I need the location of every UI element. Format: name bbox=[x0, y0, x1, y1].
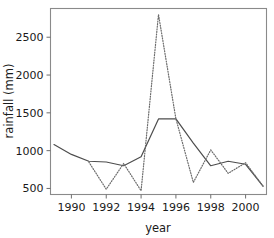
y-tick-label: 1000 bbox=[16, 145, 44, 158]
x-tick-label: 1994 bbox=[127, 201, 155, 214]
rainfall-line-chart: 5001000150020002500 19901992199419961998… bbox=[0, 0, 274, 238]
y-tick-label: 2000 bbox=[16, 69, 44, 82]
y-tick-label: 500 bbox=[23, 182, 44, 195]
plot-area: 5001000150020002500 19901992199419961998… bbox=[0, 0, 274, 238]
y-axis-title: rainfall (mm) bbox=[2, 64, 16, 139]
x-tick-label: 2000 bbox=[232, 201, 260, 214]
y-tick-label: 2500 bbox=[16, 31, 44, 44]
x-axis-title: year bbox=[145, 221, 171, 235]
x-tick-label: 1990 bbox=[57, 201, 85, 214]
x-tick-label: 1992 bbox=[92, 201, 120, 214]
y-tick-label: 1500 bbox=[16, 107, 44, 120]
x-tick-label: 1998 bbox=[197, 201, 225, 214]
x-tick-label: 1996 bbox=[162, 201, 190, 214]
